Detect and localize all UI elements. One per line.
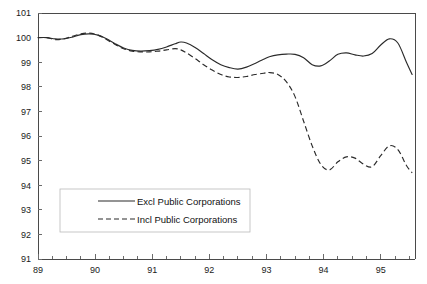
x-tick-label: 90 xyxy=(90,265,100,275)
y-tick-label: 100 xyxy=(16,33,31,43)
y-tick-label: 97 xyxy=(21,107,31,117)
x-axis-minor-ticks xyxy=(38,254,409,259)
x-tick-label: 89 xyxy=(33,265,43,275)
y-tick-label: 99 xyxy=(21,58,31,68)
x-axis-labels: 89909192939495 xyxy=(33,265,386,275)
series-layer xyxy=(38,33,412,173)
y-tick-label: 92 xyxy=(21,230,31,240)
y-tick-label: 91 xyxy=(21,254,31,264)
x-tick-label: 93 xyxy=(261,265,271,275)
y-tick-label: 96 xyxy=(21,131,31,141)
legend: Excl Public Corporations Incl Public Cor… xyxy=(60,189,250,232)
y-tick-label: 95 xyxy=(21,156,31,166)
y-tick-label: 101 xyxy=(16,8,31,18)
x-tick-label: 92 xyxy=(204,265,214,275)
legend-label-incl: Incl Public Corporations xyxy=(137,214,238,225)
legend-label-excl: Excl Public Corporations xyxy=(137,196,241,207)
series-line-excl xyxy=(38,34,412,75)
x-tick-label: 95 xyxy=(376,265,386,275)
y-axis-labels: 919293949596979899100101 xyxy=(16,8,31,264)
y-tick-label: 98 xyxy=(21,82,31,92)
y-axis-ticks xyxy=(38,13,42,259)
y-tick-label: 93 xyxy=(21,205,31,215)
series-line-incl xyxy=(38,33,412,173)
x-tick-label: 94 xyxy=(319,265,329,275)
line-chart: 919293949596979899100101 89909192939495 … xyxy=(0,0,427,284)
y-tick-label: 94 xyxy=(21,181,31,191)
x-tick-label: 91 xyxy=(147,265,157,275)
